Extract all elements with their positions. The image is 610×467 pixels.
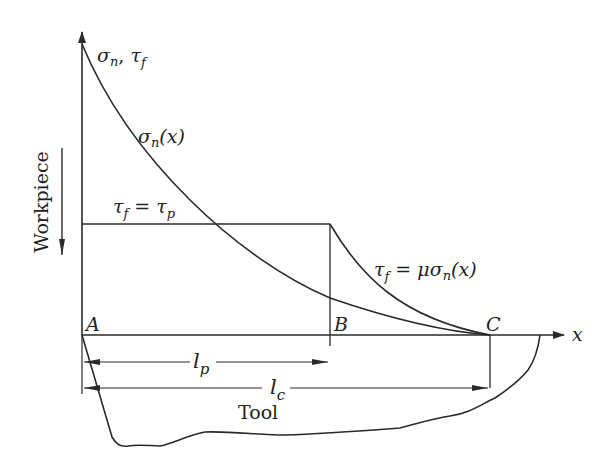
tool-outline bbox=[82, 335, 540, 446]
tau-friction-label: τf = μσn(x) bbox=[374, 258, 477, 284]
sigma-n-curve-label: σn(x) bbox=[138, 125, 185, 150]
point-c-label: C bbox=[486, 313, 501, 335]
tool-label: Tool bbox=[238, 401, 278, 423]
lp-label: lp bbox=[193, 349, 210, 378]
x-axis-label: x bbox=[572, 323, 583, 345]
stress-diagram: σn, τf Workpiece σn(x) τf = τp τf = μσn(… bbox=[0, 0, 610, 467]
point-b-label: B bbox=[333, 313, 348, 335]
tau-plateau-label: τf = τp bbox=[113, 195, 176, 221]
workpiece-label: Workpiece bbox=[30, 151, 52, 253]
point-a-label: A bbox=[84, 313, 100, 335]
y-axis-label: σn, τf bbox=[97, 44, 148, 70]
lc-label: lc bbox=[270, 375, 286, 404]
sigma-n-curve bbox=[82, 44, 490, 335]
